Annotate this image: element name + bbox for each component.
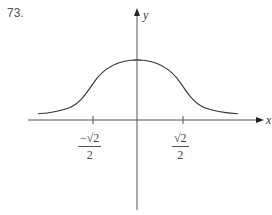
- x-tick-label-neg: −√2 2: [78, 132, 101, 161]
- x-tick-label-pos: √2 2: [172, 132, 189, 161]
- y-axis-arrow-icon: [134, 8, 140, 16]
- x-tick-pos-numerator: √2: [172, 132, 189, 147]
- x-axis-label: x: [265, 113, 272, 127]
- gaussian-curve: [38, 60, 238, 114]
- x-axis-arrow-icon: [256, 117, 264, 123]
- x-tick-neg-denominator: 2: [78, 147, 101, 161]
- gaussian-plot: x y: [0, 0, 272, 215]
- x-tick-pos-denominator: 2: [172, 147, 189, 161]
- y-axis-label: y: [142, 8, 149, 22]
- x-tick-neg-numerator: −√2: [78, 132, 101, 147]
